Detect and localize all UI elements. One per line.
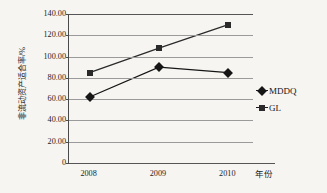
y-axis-tick-label: 40.00 <box>48 116 66 124</box>
grid-line <box>69 120 253 121</box>
chart-figure: 非流动资产适合率/% 140.00120.00100.0080.0060.004… <box>0 0 327 193</box>
grid-line <box>69 35 253 36</box>
x-axis-tick-label: 2010 <box>219 169 235 178</box>
series-lines <box>69 14 248 163</box>
grid-line <box>69 14 253 15</box>
y-axis-tick-label: 140.00 <box>43 10 66 18</box>
grid-line <box>69 142 253 143</box>
grid-line <box>69 99 253 100</box>
grid-line <box>69 78 253 79</box>
y-axis-tick-labels: 140.00120.00100.0080.0060.0040.0020.000 <box>18 0 66 193</box>
legend-item-gl[interactable]: GL <box>256 99 324 116</box>
grid-line <box>69 57 253 58</box>
legend-label: GL <box>269 103 281 113</box>
data-point-gl-2010 <box>225 22 231 28</box>
legend-label: MDDQ <box>269 86 297 96</box>
y-axis-tick-label: 20.00 <box>48 138 66 146</box>
x-axis-tick-label: 2009 <box>150 169 166 178</box>
diamond-marker <box>257 86 267 96</box>
data-point-gl-2008 <box>87 70 93 76</box>
x-axis-title: 年份 <box>255 167 273 179</box>
y-axis-tick-label: 120.00 <box>43 31 66 39</box>
legend-line-swatch <box>256 107 268 108</box>
square-marker <box>259 105 265 111</box>
y-axis-tick-label: 80.00 <box>48 74 66 82</box>
x-axis-line <box>69 163 275 164</box>
x-axis-tick-label: 2008 <box>80 169 96 178</box>
data-point-gl-2009 <box>156 45 162 51</box>
chart-legend: MDDQGL <box>256 82 324 116</box>
plot-area <box>68 14 247 163</box>
y-axis-tick-label: 60.00 <box>48 95 66 103</box>
legend-line-swatch <box>256 90 268 91</box>
y-axis-tick-label: 100.00 <box>43 53 66 61</box>
legend-item-mddq[interactable]: MDDQ <box>256 82 324 99</box>
